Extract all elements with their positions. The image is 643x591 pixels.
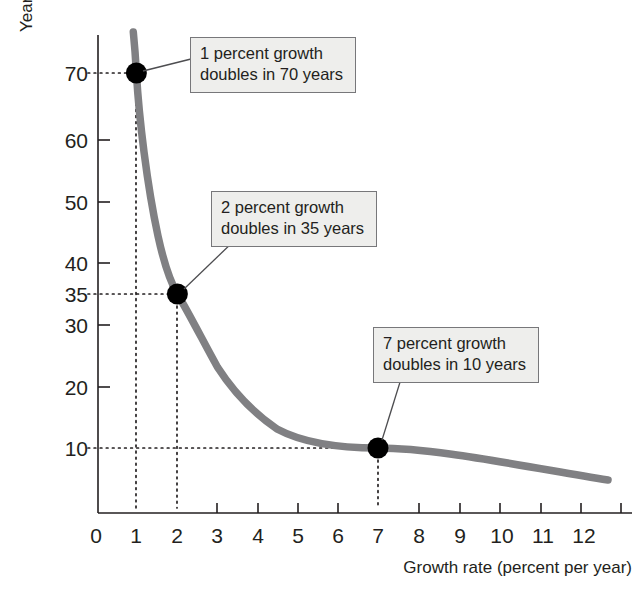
- x-tick-label: 1: [130, 524, 142, 547]
- y-tick-label: 60: [65, 129, 88, 152]
- y-tick-label: 30: [65, 314, 88, 337]
- marker-2-percent: [167, 284, 188, 305]
- x-tick-label: 6: [332, 524, 344, 547]
- x-tick-label: 3: [211, 524, 223, 547]
- y-tick-label: 10: [65, 437, 88, 460]
- doubling-time-chart: 70 60 50 40 35 30 20 10 0 1 2 3 4 5 6 7 …: [0, 0, 643, 591]
- x-tick-label: 12: [572, 524, 595, 547]
- marker-1-percent: [126, 63, 147, 84]
- y-tick-label: 20: [65, 376, 88, 399]
- x-axis-title: Growth rate (percent per year): [403, 558, 632, 577]
- callout-1-line-2: doubles in 70 years: [200, 64, 346, 85]
- x-tick-labels: 0 1 2 3 4 5 6 7 8 9 10 11 12: [90, 524, 596, 547]
- x-tick-label: 4: [252, 524, 264, 547]
- y-tick-label: 50: [65, 191, 88, 214]
- marker-7-percent: [368, 438, 389, 459]
- x-tick-label: 7: [372, 524, 384, 547]
- x-tick-label: 2: [171, 524, 183, 547]
- x-tick-label: 10: [490, 524, 513, 547]
- x-tick-label: 0: [90, 524, 102, 547]
- x-axis-ticks: [217, 503, 621, 513]
- y-tick-label: 70: [65, 62, 88, 85]
- callout-2-line-1: 2 percent growth: [221, 198, 344, 216]
- x-tick-label: 11: [532, 524, 554, 547]
- callout-1-percent: 1 percent growth doubles in 70 years: [190, 37, 356, 93]
- x-tick-label: 9: [454, 524, 466, 547]
- leader-lines: [143, 59, 401, 440]
- y-axis-title: Years for level to double: [17, 0, 36, 32]
- callout-7-line-1: 7 percent growth: [383, 334, 506, 352]
- doubling-time-curve: [133, 32, 608, 480]
- callout-2-line-2: doubles in 35 years: [221, 218, 367, 239]
- y-tick-labels: 70 60 50 40 35 30 20 10: [65, 62, 88, 460]
- callout-7-line-2: doubles in 10 years: [383, 354, 529, 375]
- callout-2-percent: 2 percent growth doubles in 35 years: [211, 191, 377, 247]
- callout-1-line-1: 1 percent growth: [200, 44, 323, 62]
- y-axis-ticks: [98, 140, 110, 387]
- y-tick-label: 40: [65, 252, 88, 275]
- x-tick-label: 5: [292, 524, 304, 547]
- y-tick-label: 35: [65, 283, 88, 306]
- x-tick-label: 8: [413, 524, 425, 547]
- leader-1-percent: [143, 59, 191, 71]
- leader-7-percent: [382, 379, 401, 440]
- callout-7-percent: 7 percent growth doubles in 10 years: [373, 327, 539, 383]
